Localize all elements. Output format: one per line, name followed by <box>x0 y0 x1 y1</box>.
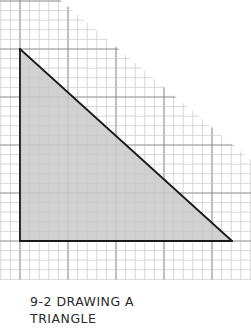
figure-caption: 9-2 DRAWING A TRIANGLE <box>30 293 134 327</box>
caption-line-1: 9-2 DRAWING A <box>30 293 134 310</box>
graph-paper-diagram <box>0 0 251 332</box>
caption-line-2: TRIANGLE <box>30 310 134 327</box>
